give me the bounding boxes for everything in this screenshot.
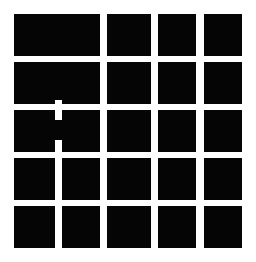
- block-r5c4: [204, 206, 242, 248]
- block-r1c2: [107, 14, 151, 56]
- block-r3c4: [204, 110, 242, 152]
- block-r2c2: [107, 62, 151, 104]
- notch-row3-upper: [55, 110, 62, 120]
- block-r2c4: [204, 62, 242, 104]
- figure-canvas: [0, 0, 256, 262]
- block-r1c4: [204, 14, 242, 56]
- block-r1c1: [14, 14, 100, 56]
- notch-row4-full: [55, 158, 62, 200]
- notch-row5-upper: [55, 206, 62, 248]
- block-r4c2: [107, 158, 151, 200]
- block-r1c3: [158, 14, 196, 56]
- notch-row2-lower: [55, 100, 62, 104]
- block-r5c2: [107, 206, 151, 248]
- notch-row3-lower: [55, 140, 62, 152]
- block-r5c3: [158, 206, 196, 248]
- block-r4c4: [204, 158, 242, 200]
- block-r3c2: [107, 110, 151, 152]
- block-r2c3: [158, 62, 196, 104]
- block-r3c3: [158, 110, 196, 152]
- block-r4c3: [158, 158, 196, 200]
- block-r2c1: [14, 62, 100, 104]
